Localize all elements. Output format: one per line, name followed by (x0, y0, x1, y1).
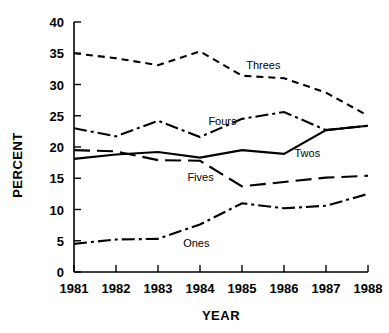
y-axis-ticks (74, 22, 81, 272)
series-lines (74, 51, 368, 244)
x-axis-title: YEAR (202, 308, 240, 323)
y-tick-label: 30 (50, 78, 64, 93)
y-axis-tick-labels: 0510152025303540 (50, 15, 64, 280)
series-label-ones: Ones (183, 237, 210, 249)
x-tick-label: 1984 (186, 281, 216, 296)
series-label-twos: Twos (295, 147, 321, 159)
chart-canvas: 0510152025303540 19811982198319841985198… (0, 0, 389, 333)
y-tick-label: 35 (50, 46, 64, 61)
x-axis-ticks (74, 265, 368, 272)
series-label-fours: Fours (208, 115, 237, 127)
series-line-twos (74, 126, 368, 159)
x-tick-label: 1986 (270, 281, 299, 296)
series-line-threes (74, 51, 368, 115)
x-tick-label: 1981 (60, 281, 89, 296)
y-tick-label: 40 (50, 15, 64, 30)
x-tick-label: 1985 (228, 281, 257, 296)
x-tick-label: 1982 (102, 281, 131, 296)
y-tick-label: 25 (50, 109, 64, 124)
x-tick-label: 1987 (312, 281, 341, 296)
line-chart: 0510152025303540 19811982198319841985198… (0, 0, 389, 333)
y-tick-label: 0 (57, 265, 64, 280)
x-axis-tick-labels: 19811982198319841985198619871988 (60, 281, 383, 296)
y-tick-label: 20 (50, 140, 64, 155)
series-line-ones (74, 194, 368, 244)
y-tick-label: 10 (50, 203, 64, 218)
series-line-fives (74, 150, 368, 186)
series-label-threes: Threes (246, 59, 281, 71)
series-label-fives: Fives (187, 171, 214, 183)
series-annotations: ThreesFoursTwosFivesOnes (183, 59, 320, 249)
x-tick-label: 1983 (144, 281, 173, 296)
y-axis-title: PERCENT (10, 132, 25, 198)
x-tick-label: 1988 (354, 281, 383, 296)
y-tick-label: 5 (57, 234, 64, 249)
y-tick-label: 15 (50, 171, 64, 186)
